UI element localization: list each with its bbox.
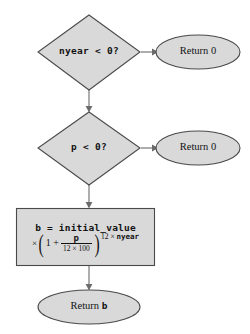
decision-node-p	[38, 112, 140, 185]
connector-nyear-to-p	[86, 90, 93, 113]
terminator-node-return-b	[38, 290, 140, 324]
compute-b-formula: b = initial_value × ( 1 + p 12 × 100 ) 1…	[17, 209, 154, 265]
fraction-denominator: 12 × 100	[61, 244, 92, 252]
flowchart-canvas	[0, 0, 250, 334]
exponent-prefix: 12 ×	[101, 232, 116, 241]
connector-p-to-compute	[86, 185, 93, 209]
right-paren: )	[94, 234, 99, 253]
exponent-variable: nyear	[117, 232, 140, 241]
left-paren: (	[39, 234, 44, 253]
terminator-node-return-zero-nyear	[156, 35, 240, 69]
formula-power-line: × ( 1 + p 12 × 100 ) 12 × nyear	[32, 234, 139, 253]
rate-fraction: p 12 × 100	[61, 234, 92, 253]
terminator-node-return-zero-p	[156, 131, 240, 165]
one-plus-text: 1 +	[46, 238, 59, 248]
multiplication-sign: ×	[32, 239, 37, 248]
connector-compute-to-returnb	[86, 266, 93, 291]
formula-inner-expression: 1 + p 12 × 100	[46, 234, 93, 253]
fraction-numerator: p	[72, 234, 81, 244]
flowchart-diagram: nyear < 0? Return 0 p < 0? Return 0 b = …	[0, 0, 250, 334]
formula-exponent: 12 × nyear	[101, 233, 139, 241]
decision-node-nyear	[38, 15, 140, 90]
